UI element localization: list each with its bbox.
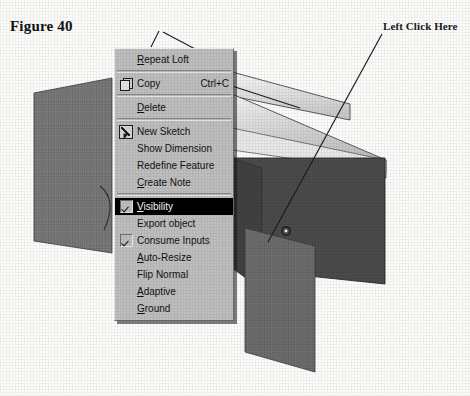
scan-grain-overlay [0,0,470,396]
menu-item-copy[interactable]: CopyCtrl+C [115,75,233,92]
menu-item-label: Flip Normal [135,269,229,280]
menu-item-label: Adaptive [135,286,229,297]
checkbox-checked-icon[interactable] [120,200,133,213]
menu-item-redefine-feature[interactable]: Redefine Feature [115,157,233,174]
menu-item-repeat-loft[interactable]: Repeat Loft [115,51,233,68]
menu-item-label: Visibility [135,201,229,212]
left-sketch-plane [34,78,112,253]
loft-right-face [232,158,385,290]
menu-item-label: Redefine Feature [135,160,229,171]
menu-item-label: New Sketch [135,126,229,137]
menu-item-create-note[interactable]: Create Note [115,174,233,191]
left-click-leader-line [268,34,382,242]
menu-item-shortcut: Ctrl+C [194,78,229,89]
menu-separator [117,70,231,73]
menu-item-export-object[interactable]: Export object [115,215,233,232]
menu-item-visibility[interactable]: Visibility [115,198,233,215]
right-sketch-plane [245,228,315,372]
left-click-here-label: Left Click Here [383,20,458,32]
copy-icon [120,78,133,90]
menu-separator [117,118,231,121]
menu-item-label: Show Dimension [135,143,229,154]
menu-separator [117,94,231,97]
page-title: Figure 40 [10,18,73,35]
new-sketch-icon [119,125,133,139]
menu-item-adaptive[interactable]: Adaptive [115,283,233,300]
menu-item-show-dimension[interactable]: Show Dimension [115,140,233,157]
checkbox-checked-icon[interactable] [120,234,133,247]
feature-context-menu[interactable]: Repeat LoftCopyCtrl+CDeleteNew SketchSho… [114,48,234,321]
menu-separator [117,193,231,196]
circle-marker [282,227,290,235]
profile-arc [100,186,110,230]
menu-item-label: Ground [135,303,229,314]
menu-item-label: Repeat Loft [135,54,229,65]
menu-item-label: Create Note [135,177,229,188]
menu-item-consume-inputs[interactable]: Consume Inputs [115,232,233,249]
menu-item-label: Auto-Resize [135,252,229,263]
menu-item-label: Delete [135,102,229,113]
menu-item-new-sketch[interactable]: New Sketch [115,123,233,140]
loft-top-faces [232,72,386,178]
menu-item-label: Copy [135,78,194,89]
menu-item-label: Export object [135,218,229,229]
menu-item-delete[interactable]: Delete [115,99,233,116]
figure-stage: Figure 40 Left Click Here Repeat LoftCop… [0,0,470,396]
cad-3d-viewport [0,0,470,396]
circle-marker-center [285,230,288,233]
menu-item-flip-normal[interactable]: Flip Normal [115,266,233,283]
menu-item-auto-resize[interactable]: Auto-Resize [115,249,233,266]
menu-item-label: Consume Inputs [135,235,229,246]
menu-item-ground[interactable]: Ground [115,300,233,317]
